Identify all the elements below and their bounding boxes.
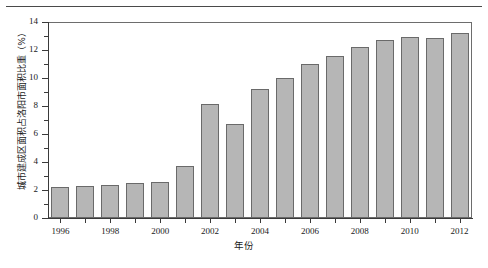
x-tick-2000 [160, 218, 161, 223]
y-tick-4: 4 [42, 162, 48, 163]
y-tick-label: 8 [34, 100, 39, 111]
bar-1999 [126, 183, 144, 218]
y-tick-label: 12 [29, 44, 38, 55]
x-tick-label: 2002 [201, 226, 219, 237]
x-tick-label: 2008 [351, 226, 369, 237]
x-axis-title: 年份 [0, 240, 488, 252]
y-tick-6: 6 [42, 134, 48, 135]
x-tick-label: 1996 [51, 226, 69, 237]
y-tick-12: 12 [42, 50, 48, 51]
y-tick-label: 2 [34, 184, 39, 195]
bar-1996 [51, 187, 69, 219]
x-tick-2008 [360, 218, 361, 223]
y-tick-label: 14 [29, 16, 38, 27]
y-tick-0: 0 [42, 218, 48, 219]
x-tick-2006 [310, 218, 311, 223]
x-tick-2005 [285, 218, 286, 223]
x-tick-2012 [460, 218, 461, 223]
x-tick-label: 2004 [251, 226, 269, 237]
bar-1998 [101, 185, 119, 218]
bar-2006 [301, 64, 319, 218]
bar-2012 [451, 33, 469, 218]
x-tick-2011 [435, 218, 436, 223]
x-tick-1997 [85, 218, 86, 223]
y-tick-label: 4 [34, 156, 39, 167]
bar-1997 [76, 186, 94, 218]
y-tick-label: 10 [29, 72, 38, 83]
y-minor-tick [44, 92, 48, 93]
y-tick-14: 14 [42, 22, 48, 23]
bar-2000 [151, 182, 169, 218]
chart-page: 城市建成区面积占洛阳市面积比重（%） 02468101214 199619982… [0, 0, 488, 268]
x-tick-1996 [60, 218, 61, 223]
y-axis-spine [48, 22, 49, 219]
x-tick-label: 2010 [401, 226, 419, 237]
bar-2007 [326, 56, 344, 218]
bar-2003 [226, 124, 244, 219]
bar-2010 [401, 37, 419, 218]
bar-2004 [251, 89, 269, 218]
y-minor-tick [44, 120, 48, 121]
x-tick-label: 2012 [451, 226, 469, 237]
y-minor-tick [44, 36, 48, 37]
bar-2001 [176, 166, 194, 218]
y-tick-label: 0 [34, 212, 39, 223]
x-tick-2002 [210, 218, 211, 223]
y-tick-2: 2 [42, 190, 48, 191]
bar-2009 [376, 40, 394, 219]
x-tick-label: 2000 [151, 226, 169, 237]
y-tick-8: 8 [42, 106, 48, 107]
bar-2002 [201, 104, 219, 218]
y-minor-tick [44, 64, 48, 65]
bar-2008 [351, 47, 369, 219]
top-divider-rule [6, 6, 482, 7]
y-minor-tick [44, 204, 48, 205]
y-tick-10: 10 [42, 78, 48, 79]
bar-2005 [276, 78, 294, 218]
y-tick-label: 6 [34, 128, 39, 139]
x-tick-1999 [135, 218, 136, 223]
x-tick-2010 [410, 218, 411, 223]
x-tick-label: 1998 [101, 226, 119, 237]
x-tick-2009 [385, 218, 386, 223]
x-tick-label: 2006 [301, 226, 319, 237]
bar-2011 [426, 38, 444, 218]
x-tick-2004 [260, 218, 261, 223]
x-tick-1998 [110, 218, 111, 223]
x-tick-2003 [235, 218, 236, 223]
y-minor-tick [44, 148, 48, 149]
y-minor-tick [44, 176, 48, 177]
y-axis-title: 城市建成区面积占洛阳市面积比重（%） [17, 9, 27, 209]
x-tick-2007 [335, 218, 336, 223]
x-tick-2001 [185, 218, 186, 223]
